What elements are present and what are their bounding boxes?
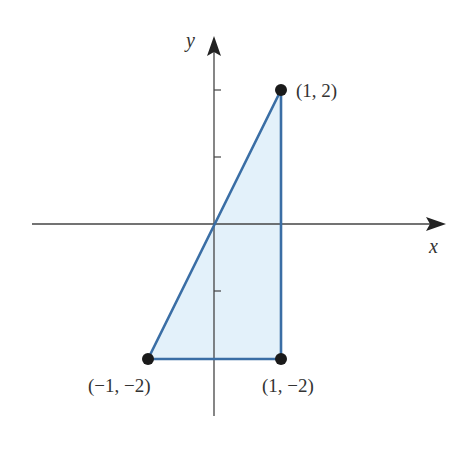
point-label-neg1-neg2: (−1, −2) — [88, 375, 151, 397]
x-axis-label: x — [428, 235, 438, 257]
y-axis-label: y — [184, 29, 195, 52]
coordinate-plane-figure: y x (1, 2) (−1, −2) (1, −2) — [0, 0, 468, 454]
point-1-2 — [275, 84, 287, 96]
point-1-neg2 — [275, 353, 287, 365]
point-label-1-2: (1, 2) — [296, 80, 337, 102]
point-neg1-neg2 — [142, 353, 154, 365]
point-label-1-neg2: (1, −2) — [262, 375, 314, 397]
